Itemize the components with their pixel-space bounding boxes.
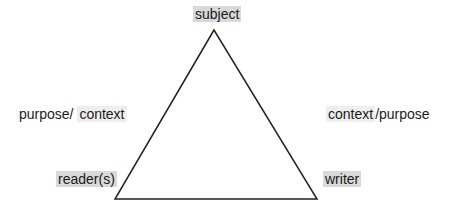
vertex-label-readers: reader(s) — [56, 170, 117, 188]
rhetorical-triangle-diagram: subject purpose/ context context/purpose… — [0, 0, 450, 211]
side-label-right: context/purpose — [326, 105, 430, 123]
vertex-label-writer: writer — [323, 170, 361, 188]
side-left-context: context — [77, 106, 126, 122]
side-label-left: purpose/ context — [19, 105, 127, 123]
side-right-suffix: /purpose — [375, 106, 429, 122]
vertex-label-subject: subject — [193, 5, 241, 23]
side-right-context: context — [326, 106, 375, 122]
side-left-prefix: purpose/ — [19, 106, 77, 122]
